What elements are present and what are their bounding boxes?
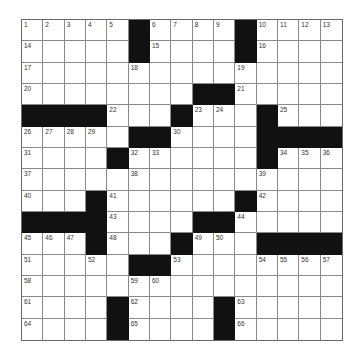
grid-cell[interactable]	[150, 319, 171, 340]
grid-cell[interactable]	[86, 63, 107, 84]
grid-cell[interactable]: 23	[193, 105, 214, 126]
grid-cell[interactable]	[107, 84, 128, 105]
grid-cell[interactable]: 30	[171, 127, 192, 148]
grid-cell[interactable]	[321, 191, 342, 212]
grid-cell[interactable]: 21	[235, 84, 256, 105]
grid-cell[interactable]	[65, 319, 86, 340]
grid-cell[interactable]	[107, 169, 128, 190]
grid-cell[interactable]	[278, 319, 299, 340]
grid-cell[interactable]	[171, 63, 192, 84]
grid-cell[interactable]	[43, 41, 64, 62]
grid-cell[interactable]	[321, 297, 342, 318]
grid-cell[interactable]: 54	[257, 255, 278, 276]
grid-cell[interactable]: 6	[150, 20, 171, 41]
grid-cell[interactable]	[321, 84, 342, 105]
grid-cell[interactable]	[150, 191, 171, 212]
grid-cell[interactable]	[150, 212, 171, 233]
grid-cell[interactable]	[171, 297, 192, 318]
grid-cell[interactable]	[107, 41, 128, 62]
grid-cell[interactable]	[43, 148, 64, 169]
grid-cell[interactable]: 31	[22, 148, 43, 169]
grid-cell[interactable]	[150, 84, 171, 105]
grid-cell[interactable]	[193, 276, 214, 297]
grid-cell[interactable]	[193, 63, 214, 84]
grid-cell[interactable]	[193, 41, 214, 62]
grid-cell[interactable]: 50	[214, 233, 235, 254]
grid-cell[interactable]: 2	[43, 20, 64, 41]
grid-cell[interactable]: 53	[171, 255, 192, 276]
grid-cell[interactable]	[107, 63, 128, 84]
grid-cell[interactable]: 1	[22, 20, 43, 41]
grid-cell[interactable]	[43, 276, 64, 297]
grid-cell[interactable]: 51	[22, 255, 43, 276]
grid-cell[interactable]	[65, 84, 86, 105]
grid-cell[interactable]	[171, 212, 192, 233]
grid-cell[interactable]: 26	[22, 127, 43, 148]
grid-cell[interactable]	[150, 63, 171, 84]
grid-cell[interactable]	[278, 297, 299, 318]
grid-cell[interactable]: 8	[193, 20, 214, 41]
grid-cell[interactable]: 52	[86, 255, 107, 276]
grid-cell[interactable]	[278, 63, 299, 84]
grid-cell[interactable]	[107, 255, 128, 276]
grid-cell[interactable]	[193, 127, 214, 148]
grid-cell[interactable]	[86, 169, 107, 190]
grid-cell[interactable]	[299, 276, 320, 297]
grid-cell[interactable]: 32	[129, 148, 150, 169]
grid-cell[interactable]	[235, 105, 256, 126]
grid-cell[interactable]	[257, 63, 278, 84]
grid-cell[interactable]	[150, 297, 171, 318]
grid-cell[interactable]	[86, 41, 107, 62]
grid-cell[interactable]	[214, 127, 235, 148]
grid-cell[interactable]	[65, 41, 86, 62]
grid-cell[interactable]	[150, 169, 171, 190]
grid-cell[interactable]	[321, 169, 342, 190]
grid-cell[interactable]: 16	[257, 41, 278, 62]
grid-cell[interactable]: 48	[107, 233, 128, 254]
grid-cell[interactable]: 43	[107, 212, 128, 233]
grid-cell[interactable]: 45	[22, 233, 43, 254]
grid-cell[interactable]	[86, 297, 107, 318]
grid-cell[interactable]	[321, 105, 342, 126]
grid-cell[interactable]: 39	[257, 169, 278, 190]
grid-cell[interactable]	[43, 84, 64, 105]
grid-cell[interactable]: 47	[65, 233, 86, 254]
grid-cell[interactable]	[299, 63, 320, 84]
grid-cell[interactable]: 56	[299, 255, 320, 276]
grid-cell[interactable]	[235, 127, 256, 148]
grid-cell[interactable]	[257, 319, 278, 340]
grid-cell[interactable]	[65, 63, 86, 84]
grid-cell[interactable]	[107, 127, 128, 148]
grid-cell[interactable]	[214, 169, 235, 190]
grid-cell[interactable]	[321, 63, 342, 84]
grid-cell[interactable]: 9	[214, 20, 235, 41]
grid-cell[interactable]: 40	[22, 191, 43, 212]
grid-cell[interactable]: 10	[257, 20, 278, 41]
grid-cell[interactable]: 12	[299, 20, 320, 41]
grid-cell[interactable]: 57	[321, 255, 342, 276]
grid-cell[interactable]	[43, 191, 64, 212]
grid-cell[interactable]	[65, 148, 86, 169]
grid-cell[interactable]: 35	[299, 148, 320, 169]
grid-cell[interactable]	[129, 84, 150, 105]
grid-cell[interactable]: 36	[321, 148, 342, 169]
grid-cell[interactable]	[299, 84, 320, 105]
grid-cell[interactable]	[257, 276, 278, 297]
grid-cell[interactable]: 28	[65, 127, 86, 148]
grid-cell[interactable]	[235, 169, 256, 190]
grid-cell[interactable]	[299, 319, 320, 340]
grid-cell[interactable]	[86, 84, 107, 105]
grid-cell[interactable]	[43, 63, 64, 84]
grid-cell[interactable]	[171, 319, 192, 340]
grid-cell[interactable]	[235, 148, 256, 169]
grid-cell[interactable]	[193, 297, 214, 318]
grid-cell[interactable]: 38	[129, 169, 150, 190]
grid-cell[interactable]: 19	[235, 63, 256, 84]
grid-cell[interactable]: 22	[107, 105, 128, 126]
grid-cell[interactable]: 3	[65, 20, 86, 41]
grid-cell[interactable]	[193, 148, 214, 169]
grid-cell[interactable]	[171, 148, 192, 169]
grid-cell[interactable]: 66	[235, 319, 256, 340]
grid-cell[interactable]: 15	[150, 41, 171, 62]
grid-cell[interactable]	[43, 319, 64, 340]
